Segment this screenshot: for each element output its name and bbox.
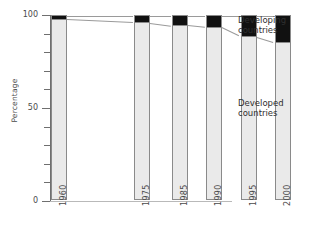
bar-1990[interactable]	[206, 15, 222, 200]
connector-split-1995-2000	[257, 37, 274, 43]
legend-developed-line1: Developed	[238, 98, 284, 108]
x-axis-line	[50, 201, 232, 202]
bar-1990-segment-developed	[207, 27, 221, 199]
connector-split-1990-1995	[222, 27, 239, 36]
legend-label-developed: Developed countries	[238, 98, 284, 118]
connector-split-1960-1975	[67, 19, 133, 23]
bar-1975[interactable]	[134, 15, 150, 200]
bar-1985-segment-developing	[173, 16, 187, 25]
legend-label-developing: Developing countries	[238, 15, 286, 35]
bar-1985-segment-developed	[173, 25, 187, 199]
connector-split-1975-1985	[150, 23, 171, 27]
bar-2000-segment-developed	[276, 42, 290, 199]
bar-1960[interactable]	[51, 15, 67, 200]
bar-1960-segment-developed	[52, 19, 66, 199]
y-tick-0	[42, 201, 50, 202]
connector-top-1960-1975	[67, 16, 133, 17]
x-tick-label-1975: 1975	[142, 184, 151, 206]
legend-developed-line2: countries	[238, 108, 284, 118]
y-tick-label-50: 50	[12, 104, 38, 112]
y-tick-100	[42, 15, 50, 16]
bar-1985[interactable]	[172, 15, 188, 200]
connector-split-1985-1990	[188, 25, 205, 28]
plot-area	[50, 15, 235, 201]
y-tick-label-0: 0	[12, 197, 38, 205]
x-tick-label-1960: 1960	[59, 184, 68, 206]
connector-top-1985-1990	[188, 16, 205, 17]
stacked-bar-chart: Percentage 100 50 0	[0, 0, 313, 246]
x-tick-label-1995: 1995	[249, 184, 258, 206]
x-tick-label-1985: 1985	[180, 184, 189, 206]
connector-top-1975-1985	[150, 16, 171, 17]
bar-1975-segment-developed	[135, 22, 149, 199]
x-tick-label-2000: 2000	[283, 184, 292, 206]
y-tick-label-100: 100	[12, 11, 38, 19]
y-axis-title: Percentage	[10, 66, 19, 136]
x-tick-label-1990: 1990	[214, 184, 223, 206]
y-tick-50	[42, 108, 50, 109]
bar-1990-segment-developing	[207, 16, 221, 27]
legend-developing-line2: countries	[238, 25, 286, 35]
legend-developing-line1: Developing	[238, 15, 286, 25]
